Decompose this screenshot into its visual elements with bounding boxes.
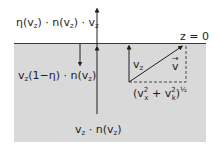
reflected-flux-label: vz(1−η) · n(vz) — [18, 69, 96, 83]
velocity-vector-label: v — [172, 60, 179, 73]
emitted-flux-label: η(vz) · n(vz) · vz — [16, 16, 99, 30]
transverse-speed-label: (v2x + v2k)½ — [133, 86, 187, 102]
flux-diagram: η(vz) · n(vz) · vz vz(1−η) · n(vz) vz · … — [0, 0, 217, 149]
surface-label: z = 0 — [180, 30, 209, 43]
